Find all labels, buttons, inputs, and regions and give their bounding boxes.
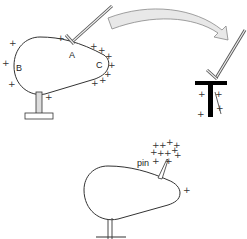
svg-text:+: +: [197, 109, 205, 119]
label-b: B: [16, 63, 22, 73]
pin-label: pin: [137, 158, 149, 168]
svg-text:+: +: [165, 156, 173, 166]
svg-text:+: +: [152, 156, 160, 166]
svg-text:+: +: [8, 79, 16, 89]
stand-base: [25, 113, 53, 119]
transfer-arrow: [108, 9, 228, 40]
svg-text:+: +: [174, 150, 182, 160]
label-c: C: [96, 60, 103, 70]
svg-text:+: +: [91, 78, 99, 88]
svg-text:+: +: [215, 89, 223, 99]
svg-text:+: +: [90, 41, 98, 51]
pin-charges: + + + + + + + + + + + +: [150, 137, 191, 195]
charging-rod: [66, 6, 112, 44]
svg-text:+: +: [9, 38, 17, 48]
charge-diagram: A B C + + + + + + + + + + + + + +: [0, 0, 247, 239]
bottom-conductor: pin + + + + + + + + + + + +: [84, 137, 191, 239]
svg-text:+: +: [198, 89, 206, 99]
svg-text:+: +: [57, 33, 65, 43]
svg-text:+: +: [183, 185, 191, 195]
label-a: A: [69, 50, 75, 60]
svg-text:+: +: [45, 92, 53, 102]
top-conductor: A B C + + + + + + + + + + + +: [2, 6, 116, 119]
svg-text:+: +: [216, 103, 224, 113]
svg-text:+: +: [2, 58, 10, 68]
t-object: + + + +: [195, 30, 245, 119]
stand-post: [36, 92, 42, 114]
svg-text:+: +: [99, 75, 107, 85]
